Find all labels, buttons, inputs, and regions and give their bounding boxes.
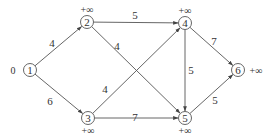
- edge-weight-3-5: 7: [132, 111, 138, 123]
- node-distance-label: +∞: [81, 4, 94, 15]
- node-distance-label: 0: [11, 65, 16, 76]
- edge-weight-2-4: 5: [132, 9, 138, 21]
- node-distance-label: +∞: [179, 125, 192, 136]
- graph-svg: 465447575 102+∞3+∞4+∞5+∞6+∞: [0, 0, 268, 139]
- node-1: 10: [11, 64, 37, 77]
- edge-weight-3-4: 4: [102, 83, 108, 95]
- node-distance-label: +∞: [250, 65, 263, 76]
- node-label: 6: [235, 64, 241, 76]
- edge-weight-4-6: 7: [211, 35, 217, 47]
- node-label: 4: [182, 17, 188, 29]
- edge-1-2: [35, 27, 82, 66]
- node-5: 5+∞: [179, 112, 192, 137]
- edge-weight-5-6: 5: [212, 94, 218, 106]
- node-6: 6+∞: [232, 64, 263, 77]
- edges-layer: 465447575: [35, 9, 233, 123]
- edge-weight-1-3: 6: [47, 95, 53, 107]
- edge-weight-4-5: 5: [188, 64, 194, 76]
- node-label: 2: [84, 16, 90, 28]
- node-3: 3+∞: [82, 112, 95, 137]
- edge-2-5: [92, 27, 180, 114]
- edge-2-4: [94, 22, 179, 23]
- node-label: 5: [182, 112, 188, 124]
- node-distance-label: +∞: [179, 5, 192, 16]
- graph-diagram: 465447575 102+∞3+∞4+∞5+∞6+∞: [0, 0, 268, 139]
- edge-1-3: [35, 74, 83, 113]
- node-label: 3: [85, 112, 91, 124]
- node-label: 1: [27, 64, 33, 76]
- edge-weight-2-5: 4: [114, 40, 120, 52]
- node-distance-label: +∞: [82, 125, 95, 136]
- node-2: 2+∞: [81, 4, 94, 29]
- edge-weight-1-2: 4: [49, 37, 55, 49]
- node-4: 4+∞: [179, 5, 192, 30]
